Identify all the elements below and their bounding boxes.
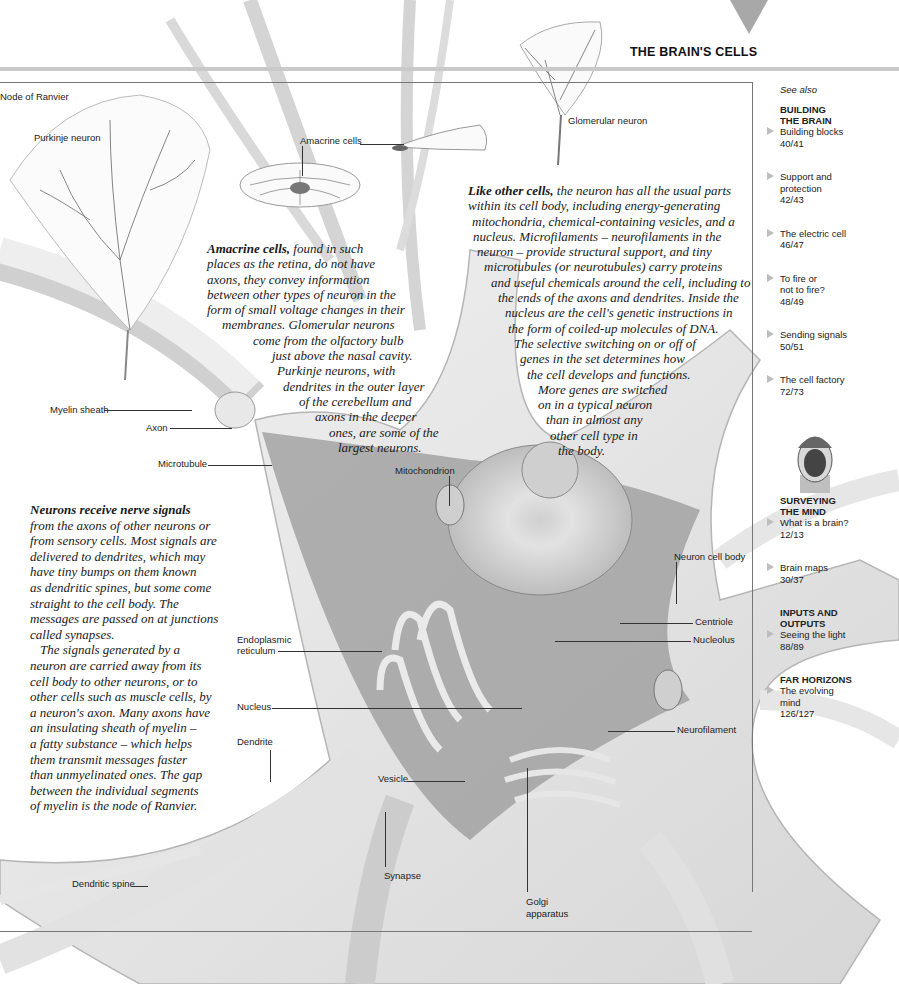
- frame-top-rule: [0, 82, 752, 83]
- leader-line: [104, 410, 192, 411]
- nerve-signals-paragraph: Neurons receive nerve signals from the a…: [30, 502, 218, 814]
- frame-bottom-rule: [0, 931, 752, 932]
- leader-line: [676, 562, 677, 604]
- label-neuron-cell-body: Neuron cell body: [674, 551, 745, 562]
- leader-line: [208, 465, 272, 466]
- leader-line: [272, 708, 522, 709]
- label-amacrine-cells: Amacrine cells: [300, 135, 362, 146]
- triangle-right-icon: [767, 229, 774, 237]
- label-centriole: Centriole: [695, 616, 733, 627]
- leader-line: [608, 731, 675, 732]
- label-myelin-sheath: Myelin sheath: [50, 404, 109, 415]
- leader-line: [555, 641, 691, 642]
- triangle-right-icon: [767, 686, 774, 694]
- leader-line: [302, 146, 303, 176]
- label-endoplasmic-reticulum: Endoplasmic reticulum: [237, 634, 291, 656]
- see-also-link-the-electric-cell[interactable]: The electric cell 46/47: [780, 228, 895, 251]
- label-purkinje-neuron: Purkinje neuron: [34, 132, 101, 143]
- see-also-link-support-and-protection[interactable]: Support and protection 42/43: [780, 171, 895, 206]
- label-node-of-ranvier: Node of Ranvier: [0, 91, 69, 102]
- leader-line: [270, 750, 271, 782]
- section-title: THE BRAIN'S CELLS: [630, 45, 757, 59]
- amacrine-paragraph: Amacrine cells, found in such places as …: [207, 241, 439, 455]
- leader-line: [385, 812, 386, 867]
- see-also-link-the-evolving-mind[interactable]: The evolving mind 126/127: [780, 685, 895, 720]
- leader-line: [527, 768, 528, 892]
- label-axon: Axon: [146, 422, 168, 433]
- label-dendrite: Dendrite: [237, 736, 273, 747]
- label-nucleus: Nucleus: [237, 701, 271, 712]
- triangle-right-icon: [767, 330, 774, 338]
- see-also-sidebar: See also BUILDING THE BRAIN Building blo…: [780, 84, 895, 720]
- label-mitochondrion: Mitochondrion: [395, 465, 455, 476]
- category-building-the-brain: BUILDING THE BRAIN: [780, 104, 895, 126]
- triangle-right-icon: [767, 172, 774, 180]
- see-also-heading: See also: [780, 84, 895, 95]
- label-nucleolus: Nucleolus: [693, 634, 735, 645]
- section-marker-icon: [730, 0, 768, 34]
- see-also-link-to-fire-or-not[interactable]: To fire or not to fire? 48/49: [780, 273, 895, 308]
- frame-right-rule: [752, 82, 753, 892]
- label-golgi-apparatus: Golgi apparatus: [526, 896, 568, 920]
- label-dendritic-spine: Dendritic spine: [72, 878, 135, 889]
- triangle-right-icon: [767, 563, 774, 571]
- triangle-right-icon: [767, 274, 774, 282]
- label-glomerular-neuron: Glomerular neuron: [568, 115, 647, 126]
- leader-line: [620, 623, 693, 624]
- cell-parts-paragraph: Like other cells, the neuron has all the…: [468, 183, 750, 458]
- see-also-link-sending-signals[interactable]: Sending signals 50/51: [780, 329, 895, 352]
- see-also-link-the-cell-factory[interactable]: The cell factory 72/73: [780, 374, 895, 397]
- label-neurofilament: Neurofilament: [677, 724, 736, 735]
- leader-line: [360, 144, 404, 145]
- category-inputs-and-outputs: INPUTS AND OUTPUTS: [780, 607, 895, 629]
- see-also-link-seeing-the-light[interactable]: Seeing the light 88/89: [780, 629, 895, 652]
- triangle-right-icon: [767, 518, 774, 526]
- category-far-horizons: FAR HORIZONS: [780, 674, 895, 685]
- label-synapse: Synapse: [384, 870, 421, 881]
- leader-line: [407, 781, 465, 782]
- leader-line: [131, 886, 148, 887]
- leader-line: [449, 476, 450, 506]
- header-rule: [0, 67, 899, 71]
- see-also-link-brain-maps[interactable]: Brain maps 30/37: [780, 562, 895, 585]
- see-also-link-building-blocks[interactable]: Building blocks 40/41: [780, 126, 895, 149]
- triangle-right-icon: [767, 630, 774, 638]
- triangle-right-icon: [767, 127, 774, 135]
- see-also-link-what-is-a-brain[interactable]: What is a brain? 12/13: [780, 517, 895, 540]
- label-microtubule: Microtubule: [158, 458, 207, 469]
- label-vesicle: Vesicle: [378, 773, 408, 784]
- leader-line: [278, 651, 382, 652]
- triangle-right-icon: [767, 375, 774, 383]
- category-surveying-the-mind: SURVEYING THE MIND: [780, 495, 895, 517]
